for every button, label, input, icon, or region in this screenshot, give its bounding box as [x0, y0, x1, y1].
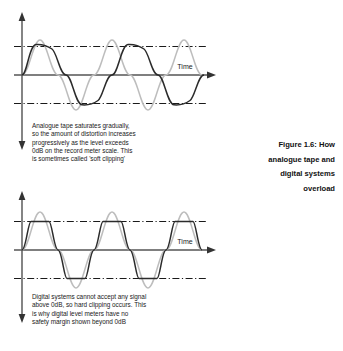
time-axis-label: Time [177, 238, 192, 245]
digital-annotation-text: Digital systems cannot accept any signal… [32, 293, 192, 326]
figure-caption-line-3: digital systems [225, 167, 335, 182]
vertical-axis [19, 191, 26, 323]
time-axis [14, 247, 216, 254]
chart-analogue-tape-soft-clipping: Time Analogue tape saturates gradually, … [0, 4, 230, 179]
figure-caption-line-2: analogue tape and [225, 153, 335, 168]
vertical-axis [19, 12, 26, 150]
chart-digital-hard-clipping: Time Digital systems cannot accept any s… [0, 183, 230, 351]
time-axis-label: Time [177, 63, 192, 70]
figure-caption-line-1: Figure 1.6: How [225, 138, 335, 153]
analogue-annotation-text: Analogue tape saturates gradually, so th… [32, 122, 192, 163]
figure-container: Time Analogue tape saturates gradually, … [0, 0, 343, 351]
figure-caption-line-4: overload [225, 182, 335, 197]
figure-caption: Figure 1.6: How analogue tape and digita… [225, 138, 335, 196]
